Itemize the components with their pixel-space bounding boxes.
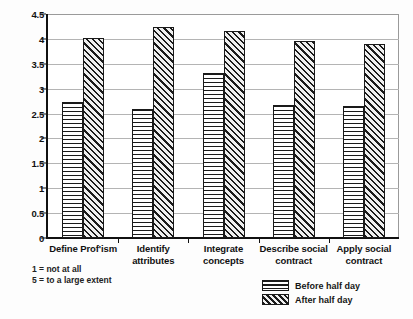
bar-after — [153, 27, 174, 238]
bar-after — [364, 44, 385, 238]
y-axis-tick-mark — [41, 88, 46, 89]
bar-group — [203, 14, 245, 238]
legend-swatch-after-icon — [262, 294, 289, 305]
x-axis-category-label: Identify attributes — [118, 243, 188, 266]
x-axis-category-label-line: Apply social — [329, 243, 399, 255]
y-axis-tick-mark — [41, 163, 46, 164]
scale-key-note: 1 = not at all 5 = to a large extent — [32, 264, 112, 286]
bar-after — [294, 41, 315, 238]
scale-key-line-2: 5 = to a large extent — [32, 275, 112, 286]
bar-after — [224, 31, 245, 238]
y-axis-tick-mark — [41, 113, 46, 114]
y-axis-tick-mark — [41, 14, 46, 15]
bar-group — [132, 14, 174, 238]
legend-item-after: After half day — [262, 294, 360, 305]
y-axis-tick-mark — [41, 188, 46, 189]
bar-before — [132, 109, 153, 238]
x-axis-category-label: Integrateconcepts — [188, 243, 258, 266]
x-axis-category-label-line: Define Prof'ism — [48, 243, 118, 255]
bars-layer — [48, 14, 399, 238]
bar-before — [62, 102, 83, 238]
chart-legend: Before half day After half day — [262, 280, 360, 308]
x-axis-category-label-line: concepts — [188, 255, 258, 267]
y-axis-tick-mark — [41, 238, 46, 239]
y-axis-tick-mark — [41, 138, 46, 139]
x-axis-category-label: Define Prof'ism — [48, 243, 118, 255]
bar-before — [343, 106, 364, 238]
chart-page: 00.511.522.533.544.5 Define Prof'ismIden… — [0, 0, 413, 319]
legend-item-before: Before half day — [262, 280, 360, 291]
legend-swatch-before-icon — [262, 280, 289, 291]
x-axis-category-label-line: Identify attributes — [118, 243, 188, 266]
bar-group — [343, 14, 385, 238]
y-axis-tick-mark — [41, 38, 46, 39]
legend-label-before: Before half day — [295, 281, 360, 291]
legend-label-after: After half day — [295, 295, 353, 305]
bar-before — [273, 105, 294, 238]
x-axis-category-label-line: contract — [329, 255, 399, 267]
x-axis-category-label-line: Integrate — [188, 243, 258, 255]
x-axis-category-label-line: Describe social — [259, 243, 329, 255]
scale-key-line-1: 1 = not at all — [32, 264, 112, 275]
bar-group — [273, 14, 315, 238]
bar-before — [203, 73, 224, 238]
bar-after — [83, 38, 104, 238]
x-axis-category-label-line: contract — [259, 255, 329, 267]
bar-group — [62, 14, 104, 238]
y-axis-tick-mark — [41, 213, 46, 214]
y-axis-tick-mark — [41, 63, 46, 64]
x-axis-category-label: Apply socialcontract — [329, 243, 399, 266]
x-axis-category-label: Describe socialcontract — [259, 243, 329, 266]
